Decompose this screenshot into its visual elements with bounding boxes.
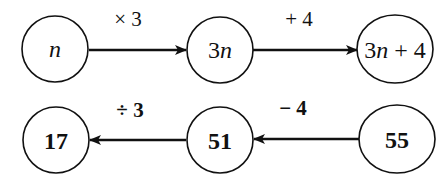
node-3n-coef: 3 — [208, 37, 220, 63]
node-17: 17 — [23, 107, 89, 173]
svg-text:3n: 3n — [208, 37, 232, 63]
node-55: 55 — [359, 105, 435, 173]
node-17-label: 17 — [44, 128, 68, 154]
node-3n4-coef: 3 — [364, 37, 376, 63]
node-n-label: n — [49, 36, 61, 62]
node-3n: 3n — [187, 17, 253, 83]
node-51: 51 — [187, 107, 253, 173]
svg-text:3n + 4: 3n + 4 — [364, 37, 426, 63]
function-machine-diagram: n × 3 3n + 4 3n + 4 17 ÷ 3 51 − 4 55 — [0, 0, 443, 191]
node-3n-plus-4: 3n + 4 — [357, 15, 433, 83]
edge-times-3-label: × 3 — [114, 7, 142, 31]
edge-divide-3-label: ÷ 3 — [116, 98, 143, 122]
node-n: n — [22, 16, 88, 82]
edge-minus-4-label: − 4 — [279, 96, 307, 120]
edge-plus-4-label: + 4 — [285, 7, 313, 31]
node-55-label: 55 — [385, 127, 409, 153]
node-3n4-rest: + 4 — [388, 37, 426, 63]
node-51-label: 51 — [208, 128, 232, 154]
node-3n-var: n — [220, 37, 232, 63]
node-3n4-var: n — [376, 37, 388, 63]
